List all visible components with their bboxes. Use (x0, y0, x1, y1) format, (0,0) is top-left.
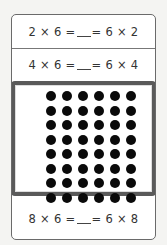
dot (62, 91, 72, 101)
dot (78, 149, 88, 159)
equation-right: = 6 × 2 (92, 25, 139, 39)
dot (78, 91, 88, 101)
dot (110, 120, 120, 130)
dot (78, 164, 88, 174)
dot (46, 106, 56, 116)
dot (46, 120, 56, 130)
dot (62, 106, 72, 116)
dot (62, 135, 72, 145)
dot (78, 106, 88, 116)
dot (110, 149, 120, 159)
dot (110, 164, 120, 174)
dot (126, 178, 136, 188)
dot (94, 106, 104, 116)
dot-array-box (11, 81, 156, 196)
dot (126, 120, 136, 130)
equation-left: 8 × 6 = (29, 212, 76, 226)
dot (126, 164, 136, 174)
dot (46, 164, 56, 174)
equation-row-3: 8 × 6 = = 6 × 8 (12, 196, 155, 240)
equation-row-1: 2 × 6 = = 6 × 2 (12, 15, 155, 49)
dot (94, 91, 104, 101)
dot (62, 120, 72, 130)
dot (46, 135, 56, 145)
dot (126, 135, 136, 145)
dot (78, 120, 88, 130)
equation-row-2: 4 × 6 = = 6 × 4 (12, 48, 155, 81)
dot (126, 91, 136, 101)
dot (126, 149, 136, 159)
dot (46, 178, 56, 188)
answer-blank[interactable] (77, 59, 91, 70)
dot (94, 149, 104, 159)
equation-left: 2 × 6 = (29, 25, 76, 39)
equation-left: 4 × 6 = (29, 58, 76, 72)
dot (46, 149, 56, 159)
answer-blank[interactable] (77, 26, 91, 37)
dot (126, 106, 136, 116)
dot-array (43, 89, 139, 205)
equation-right: = 6 × 4 (92, 58, 139, 72)
dot (78, 178, 88, 188)
dot (110, 135, 120, 145)
dot (110, 106, 120, 116)
dot (94, 164, 104, 174)
equation-card: 2 × 6 = = 6 × 2 4 × 6 = = 6 × 4 8 × 6 = … (11, 14, 156, 240)
dot (110, 91, 120, 101)
dot (46, 91, 56, 101)
dot (94, 135, 104, 145)
dot (62, 164, 72, 174)
dot (78, 135, 88, 145)
answer-blank[interactable] (77, 213, 91, 224)
dot (62, 149, 72, 159)
dot (110, 178, 120, 188)
dot (94, 120, 104, 130)
dot (62, 178, 72, 188)
equation-right: = 6 × 8 (92, 212, 139, 226)
dot (94, 178, 104, 188)
